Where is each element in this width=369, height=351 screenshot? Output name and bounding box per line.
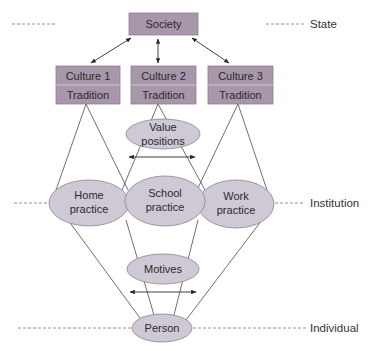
svg-text:positions: positions (141, 135, 185, 147)
level-label-state: State (310, 18, 337, 30)
value-positions-node: Value positions (126, 119, 200, 149)
svg-text:Value: Value (149, 121, 176, 133)
culture-node-3: Culture 3 Tradition (208, 66, 273, 104)
culture-label: Culture 3 (218, 70, 263, 82)
motives-node: Motives (127, 254, 199, 284)
work-practice-node: Work practice (198, 180, 274, 228)
culture-node-1: Culture 1 Tradition (56, 66, 120, 104)
person-node: Person (132, 314, 192, 342)
tradition-label: Tradition (142, 89, 184, 101)
svg-text:School: School (148, 187, 182, 199)
society-arrows (91, 38, 229, 63)
culture-label: Culture 1 (66, 70, 111, 82)
svg-text:Motives: Motives (144, 263, 182, 275)
culture-label: Culture 2 (141, 70, 186, 82)
arrow-society-culture3 (192, 38, 229, 63)
svg-text:Home: Home (74, 189, 103, 201)
svg-text:Person: Person (145, 322, 180, 334)
svg-text:Work: Work (223, 190, 249, 202)
society-node: Society (129, 13, 198, 35)
level-label-institution: Institution (310, 197, 359, 209)
tradition-label: Tradition (219, 89, 261, 101)
diagram-canvas: State Institution Individual Society Cul… (0, 0, 369, 351)
home-practice-node: Home practice (49, 180, 129, 226)
svg-text:practice: practice (70, 203, 109, 215)
arrow-society-culture1 (91, 38, 131, 63)
school-practice-node: School practice (125, 176, 205, 226)
level-label-individual: Individual (310, 322, 359, 334)
culture-node-2: Culture 2 Tradition (131, 66, 196, 104)
svg-text:practice: practice (217, 204, 256, 216)
svg-text:practice: practice (146, 201, 185, 213)
society-label: Society (145, 18, 182, 30)
tradition-label: Tradition (67, 89, 109, 101)
